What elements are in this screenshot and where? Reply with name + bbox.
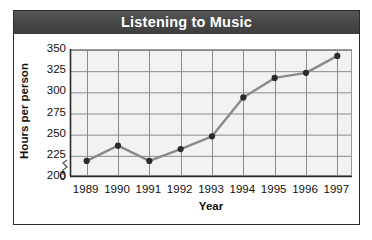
y-tick-label: 350 <box>26 42 66 54</box>
y-tick-labels: 3503253002752502252000 <box>24 0 66 240</box>
y-tick-label: 0 <box>26 170 66 182</box>
x-tick-label: 1997 <box>314 183 358 195</box>
x-axis-title: Year <box>70 200 352 212</box>
data-series-line <box>71 50 352 176</box>
y-tick-label: 225 <box>26 148 66 160</box>
y-tick-label: 325 <box>26 63 66 75</box>
y-tick-label: 250 <box>26 127 66 139</box>
y-axis-title: Hours per person <box>18 51 30 171</box>
y-tick-label: 275 <box>26 106 66 118</box>
x-tick-labels: 198919901991199219931994199519961997 <box>0 183 372 199</box>
y-tick-label: 300 <box>26 84 66 96</box>
plot-area <box>70 49 352 176</box>
chart-figure: Listening to Music 350325300275250225200… <box>0 0 372 240</box>
